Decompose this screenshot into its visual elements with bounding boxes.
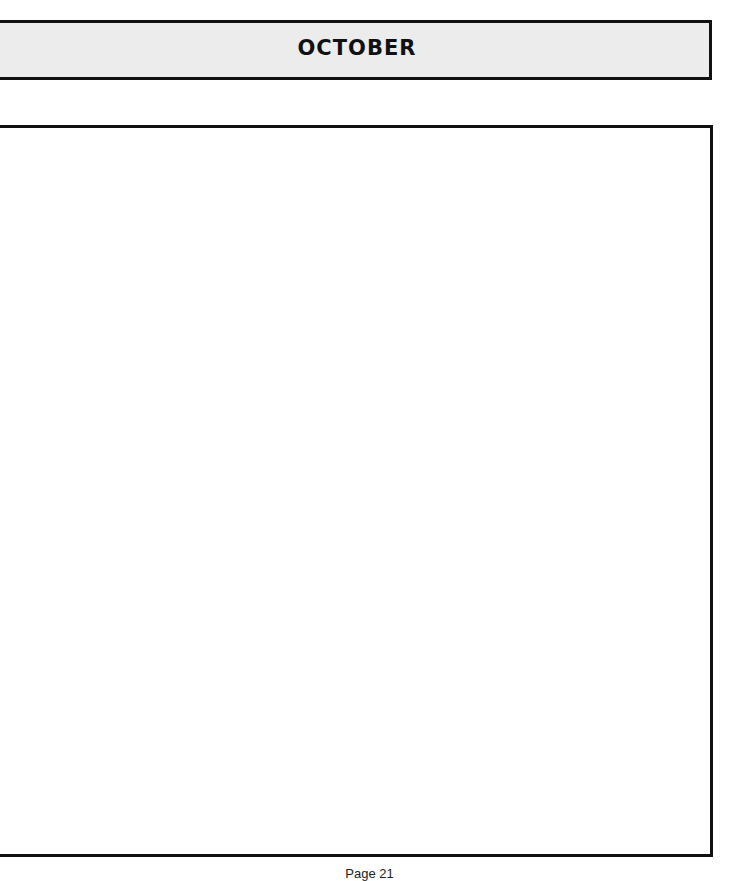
page-footer: Page 21 xyxy=(0,866,739,881)
notes-area xyxy=(0,125,713,857)
month-title: OCTOBER xyxy=(298,36,417,60)
month-header-box: OCTOBER xyxy=(0,20,712,80)
